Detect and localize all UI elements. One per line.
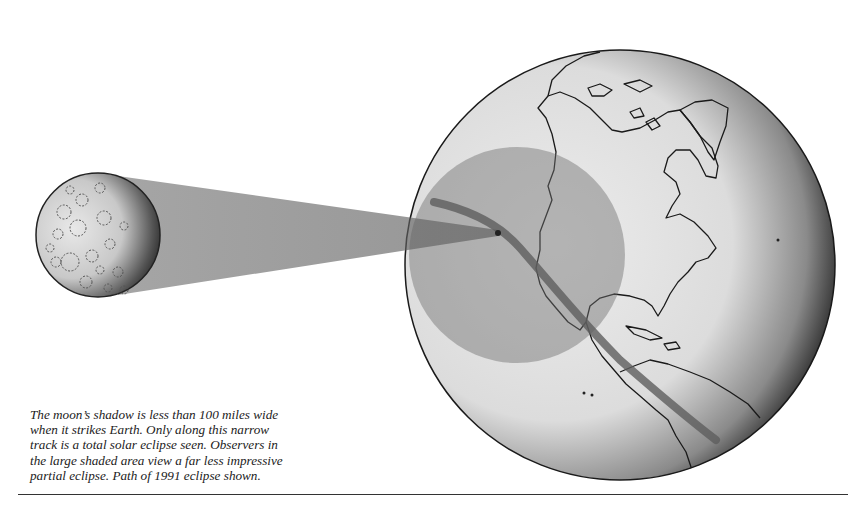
figure-caption: The moon’s shadow is less than 100 miles…	[30, 407, 310, 483]
caption-line: when it strikes Earth. Only along this n…	[30, 422, 310, 437]
caption-line: the large shaded area view a far less im…	[30, 453, 310, 468]
horizontal-divider	[18, 494, 848, 495]
caption-line: partial eclipse. Path of 1991 eclipse sh…	[30, 468, 310, 483]
moon	[36, 173, 160, 297]
caption-line: track is a total solar eclipse seen. Obs…	[30, 437, 310, 452]
caption-line: The moon’s shadow is less than 100 miles…	[30, 407, 310, 422]
